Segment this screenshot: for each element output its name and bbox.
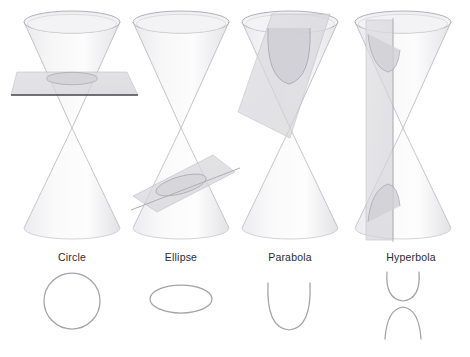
cutting-plane-horizontal: [11, 72, 138, 95]
label-circle: Circle: [58, 251, 86, 263]
conic-sections-figure: Circle Ellipse: [0, 0, 470, 357]
label-parabola: Parabola: [268, 251, 312, 263]
label-hyperbola: Hyperbola: [386, 251, 436, 263]
conic-sections-canvas: Circle Ellipse: [0, 0, 470, 357]
label-ellipse: Ellipse: [165, 251, 197, 263]
